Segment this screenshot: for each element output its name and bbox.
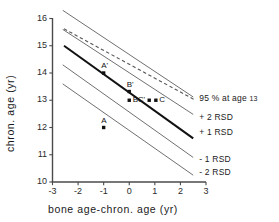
data-point-A' bbox=[102, 71, 105, 74]
x-axis-title: bone age-chron. age (yr) bbox=[48, 203, 178, 215]
point-label-A': A' bbox=[101, 61, 108, 70]
x-tick-label-2: 2 bbox=[170, 186, 190, 196]
x-tick-label-1: 1 bbox=[145, 186, 165, 196]
band-label-text-0: 95 % at age bbox=[199, 93, 249, 103]
x-tick-label--2: -2 bbox=[68, 186, 88, 196]
data-point-C bbox=[154, 99, 157, 102]
y-tick-label-10: 10 bbox=[31, 176, 47, 186]
y-tick-label-12: 12 bbox=[31, 122, 47, 132]
y-tick-label-14: 14 bbox=[31, 67, 47, 77]
chart-figure: 10111213141516-3-2-10123 95 % at age 13+… bbox=[0, 0, 279, 222]
band-label-0: 95 % at age 13 bbox=[199, 93, 257, 103]
point-label-C': C' bbox=[138, 95, 145, 104]
y-tick-label-13: 13 bbox=[31, 94, 47, 104]
data-point-B bbox=[128, 99, 131, 102]
x-tick-label--3: -3 bbox=[43, 186, 63, 196]
data-point-C' bbox=[148, 99, 151, 102]
band-label-text-1: + 2 RSD bbox=[199, 112, 233, 122]
y-tick-label-11: 11 bbox=[31, 149, 47, 159]
band-label-text-2: + 1 RSD bbox=[199, 127, 233, 137]
x-tick-label-3: 3 bbox=[196, 186, 216, 196]
band-label-sub-0: 13 bbox=[249, 95, 257, 102]
series-line-0 bbox=[64, 29, 194, 100]
band-label-2: + 1 RSD bbox=[199, 127, 233, 137]
data-point-B' bbox=[128, 90, 131, 93]
point-label-B': B' bbox=[127, 80, 134, 89]
series-line-5 bbox=[63, 84, 193, 175]
band-label-text-3: - 1 RSD bbox=[199, 154, 231, 164]
x-tick-label-0: 0 bbox=[119, 186, 139, 196]
point-label-A: A bbox=[101, 116, 106, 125]
x-tick-label--1: -1 bbox=[94, 186, 114, 196]
point-label-C: C bbox=[159, 95, 165, 104]
y-axis-title: chron. age (yr) bbox=[4, 75, 16, 152]
y-tick-label-16: 16 bbox=[31, 13, 47, 23]
band-label-text-4: - 2 RSD bbox=[199, 167, 231, 177]
y-tick-label-15: 15 bbox=[31, 40, 47, 50]
data-point-A bbox=[102, 126, 105, 129]
band-label-1: + 2 RSD bbox=[199, 112, 233, 122]
band-label-4: - 2 RSD bbox=[199, 167, 231, 177]
band-label-3: - 1 RSD bbox=[199, 154, 231, 164]
